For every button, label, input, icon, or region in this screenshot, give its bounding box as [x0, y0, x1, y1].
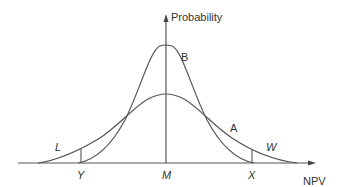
tick-x-label: X	[247, 169, 256, 181]
tick-y-label: Y	[77, 169, 85, 181]
region-l-label: L	[55, 141, 61, 153]
curve-b-label: B	[181, 51, 188, 63]
region-w-label: W	[266, 141, 278, 153]
x-axis-label: NPV	[303, 175, 326, 187]
y-axis-label: Probability	[171, 11, 223, 23]
tick-m-label: M	[162, 169, 172, 181]
curve-a	[38, 94, 297, 163]
curve-a-label: A	[230, 122, 238, 134]
x-axis-arrow-icon	[308, 161, 316, 166]
y-axis-arrow-icon	[164, 14, 169, 22]
y-axis	[164, 14, 169, 163]
x-axis	[18, 161, 316, 166]
npv-probability-diagram: Probability NPV B A L W Y M X	[0, 0, 338, 187]
